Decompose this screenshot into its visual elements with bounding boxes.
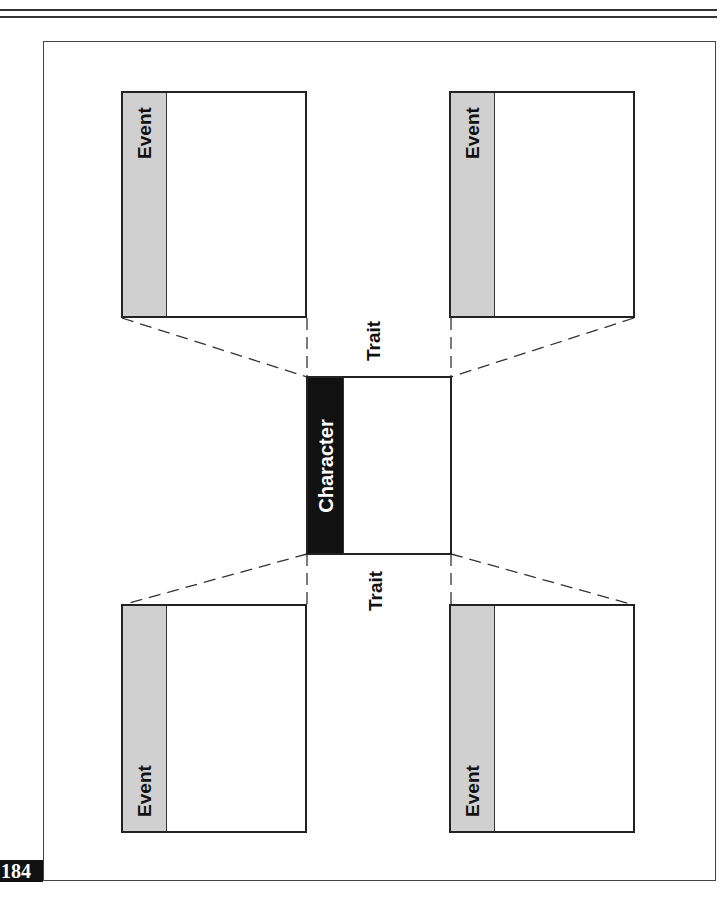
- character-label-strip: Character: [308, 378, 344, 553]
- event-label-strip: Event: [451, 93, 495, 316]
- trait-label-bottom: Trait: [365, 571, 387, 611]
- event-label: Event: [134, 107, 156, 159]
- event-label: Event: [134, 765, 156, 817]
- event-box-bottom-left[interactable]: Event: [121, 604, 307, 833]
- event-label-strip: Event: [451, 606, 495, 831]
- event-label: Event: [462, 107, 484, 159]
- character-label: Character: [314, 419, 337, 512]
- trait-label-top: Trait: [363, 321, 385, 361]
- event-box-top-right[interactable]: Event: [449, 91, 635, 318]
- event-box-top-left[interactable]: Event: [121, 91, 307, 318]
- event-label-strip: Event: [123, 606, 167, 831]
- event-label: Event: [462, 765, 484, 817]
- event-box-bottom-right[interactable]: Event: [449, 604, 635, 833]
- character-box[interactable]: Character: [306, 376, 452, 555]
- page-number: 184: [0, 860, 43, 882]
- event-label-strip: Event: [123, 93, 167, 316]
